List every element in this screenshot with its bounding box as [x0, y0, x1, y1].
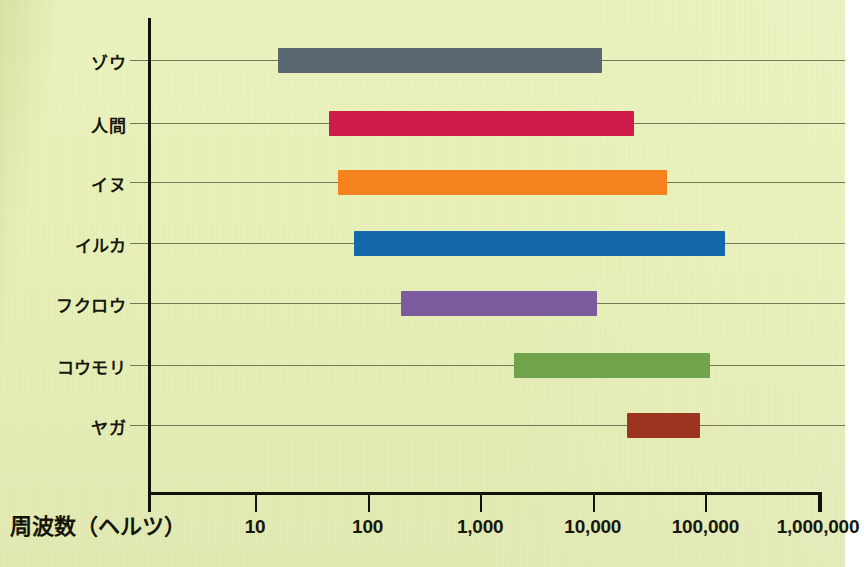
label-leader-line — [130, 365, 150, 366]
x-axis-line — [148, 492, 822, 495]
category-label-3: イルカ — [75, 232, 127, 257]
gridline — [148, 425, 845, 426]
category-label-2: イヌ — [91, 171, 126, 196]
x-tick-1 — [368, 495, 370, 512]
category-label-4: フクロウ — [56, 292, 126, 317]
range-bar-3 — [354, 231, 726, 256]
label-leader-line — [130, 60, 150, 61]
label-leader-line — [130, 123, 150, 124]
range-bar-5 — [514, 353, 710, 378]
gridline — [148, 365, 845, 366]
x-tick-2 — [480, 495, 482, 512]
x-axis-title: 周波数（ヘルツ） — [10, 508, 186, 540]
range-bar-1 — [329, 111, 634, 136]
y-axis-line — [148, 18, 151, 495]
x-tick-3 — [593, 495, 595, 512]
category-label-6: ヤガ — [91, 414, 126, 439]
x-tick-label-5: 1,000,000 — [748, 516, 864, 538]
x-tick-4 — [705, 495, 707, 512]
x-tick-0 — [255, 495, 257, 512]
label-leader-line — [130, 182, 150, 183]
category-label-5: コウモリ — [57, 354, 126, 379]
category-label-0: ゾウ — [91, 49, 126, 74]
range-bar-2 — [338, 170, 667, 195]
label-leader-line — [130, 243, 150, 244]
range-bar-6 — [627, 413, 701, 438]
label-leader-line — [130, 425, 150, 426]
range-bar-0 — [278, 48, 602, 73]
range-bar-4 — [401, 291, 597, 316]
category-label-1: 人間 — [91, 112, 126, 137]
x-axis-end-tick — [820, 495, 822, 512]
label-leader-line — [130, 303, 150, 304]
